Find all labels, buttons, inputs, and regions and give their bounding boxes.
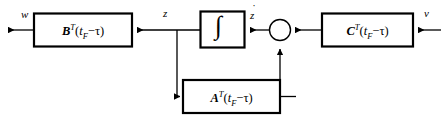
c-block-matrix: C	[346, 24, 354, 38]
b-block-label: BT(tF−τ)	[34, 23, 132, 40]
signal-label-z: z	[163, 8, 167, 19]
c-block-paren-close: )	[384, 24, 388, 38]
summing-junction-circle	[270, 20, 291, 41]
b-block-arg-op: −	[88, 24, 95, 38]
signal-label-v: v	[424, 8, 429, 19]
signal-label-zdot-base: z	[250, 9, 254, 21]
c-block-label: CT(tF−τ)	[322, 23, 413, 40]
integral-icon: ∫	[215, 13, 222, 39]
a-block-matrix: A	[210, 91, 218, 105]
b-block-matrix: B	[62, 24, 70, 38]
b-block-paren-close: )	[100, 24, 104, 38]
a-block-paren-close: )	[248, 91, 252, 105]
z-feedback-drop-path	[177, 30, 178, 97]
block-diagram: BT(tF−τ) ∫ AT(tF−τ) CT(tF−τ) w z z ̇ v	[0, 0, 441, 123]
signal-label-w: w	[21, 9, 28, 20]
integrator-box	[201, 12, 245, 48]
signal-label-zdot: z ̇	[250, 10, 254, 21]
a-block-label: AT(tF−τ)	[183, 90, 280, 107]
